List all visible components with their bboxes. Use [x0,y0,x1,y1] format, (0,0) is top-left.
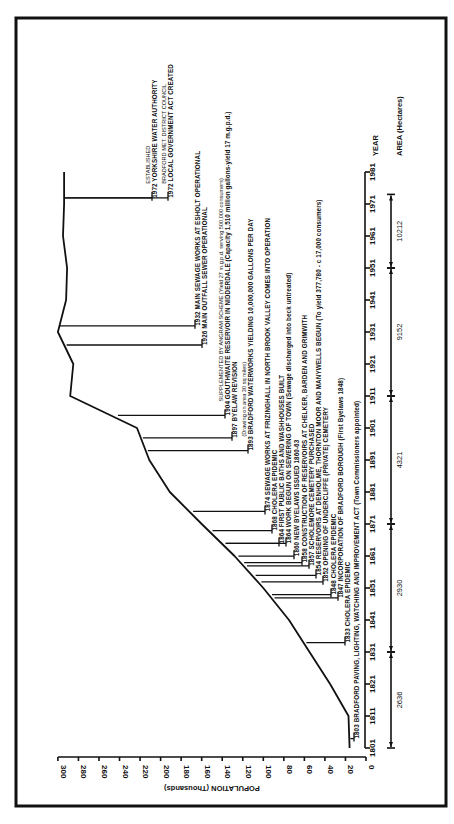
annotation-text: 1854 RESERVOIRS AT DENHOLME, THORNTON MO… [315,199,323,575]
annotation-1926: 1926 MAIN OUTFALL SEWER OPERATIONAL [67,207,208,348]
population-tick-label: 180 [182,765,191,779]
annotation-text: 1893 BRADFORD WATERWORKS YIELDING 10,000… [247,218,255,451]
annotation-1972: 1972 YORKSHIRE WATER AUTHORITYESTABLISHE… [65,79,158,201]
annotation-1803: 1803 BRADFORD PAVING, LIGHTING, WATCHING… [350,401,361,742]
area-axis-title: AREA (Hectares) [395,96,404,156]
population-axis: 0204060801001201401601802002202402602803… [58,757,376,793]
area-hectares-value: 4321 [395,452,404,469]
population-tick-label: 120 [244,765,253,779]
event-annotations: 1803 BRADFORD PAVING, LIGHTING, WATCHING… [60,64,361,742]
annotation-text: 1847 INCORPORATION OF BRADFORD BOROUGH (… [337,378,345,598]
population-tick-label: 100 [264,765,273,779]
area-hectares-axis: 263629304321915210212AREA (Hectares) [387,96,404,748]
annotation-text: 1857 SCHOLEMORE CEMETERY PURCHASED [308,423,315,566]
annotation-1904: 1904 GOUTHWAITE RESERVOIR IN NIDDERDALE … [118,112,232,419]
population-tick-label: 220 [141,765,150,779]
year-axis: 1801181118211831184118511861187118811891… [365,135,380,757]
population-tick-label: 0 [367,765,376,770]
year-tick-label: 1941 [368,291,377,309]
population-tick-label: 160 [203,765,212,779]
annotation-text: 1864 FIRST PUBLIC BATHS AND WASHHOUSES B… [278,375,285,544]
population-tick-label: 40 [326,765,335,774]
year-tick-label: 1971 [368,195,377,213]
annotation-text: 1972 LOCAL GOVERNMENT ACT CREATED [167,64,174,198]
annotation-text: 1833 CHOLERA EPIDEMIC [344,561,351,642]
annotation-text: 1926 MAIN OUTFALL SEWER OPERATIONAL [201,207,208,345]
annotation-text: 1852 OPENING OF UNDERCLIFFE (PRIVATE) CE… [322,406,330,582]
annotation-text: 1904 GOUTHWAITE RESERVOIR IN NIDDERDALE … [224,112,232,416]
year-tick-label: 1831 [368,643,377,661]
annotation-text: 1858 CONSTRUCTION OF RESERVOIRS AT CHELK… [301,315,309,563]
annotation-1932: 1932 MAIN SEWAGE WORKS AT ESHOLT OPERATI… [60,151,201,329]
year-tick-label: 1851 [368,579,377,597]
year-tick-label: 1891 [368,451,377,469]
annotation-text: 1874 SEWAGE WORKS AT FRIZINGHALL IN NORT… [264,218,271,512]
annotation-text: 1860 NEW BYELAWS ISSUED 1860-63 [293,439,300,556]
annotation-text: 1972 YORKSHIRE WATER AUTHORITY [151,79,158,198]
annotation-text: 1932 MAIN SEWAGE WORKS AT ESHOLT OPERATI… [194,151,201,326]
annotation-text: (Drawing on area 30 sq miles) [241,362,247,437]
year-tick-label: 1901 [368,419,377,437]
year-tick-label: 1841 [368,611,377,629]
year-tick-label: 1981 [368,163,377,181]
population-tick-label: 280 [79,765,88,779]
year-tick-label: 1821 [368,675,377,693]
population-tick-label: 20 [346,765,355,774]
year-tick-label: 1801 [368,739,377,757]
year-tick-label: 1931 [368,323,377,341]
year-tick-label: 1951 [368,259,377,277]
annotation-text: 1868 CHOLERA EPIDEMIC [271,449,278,530]
population-tick-label: 240 [121,765,130,779]
year-axis-title: YEAR [371,135,380,156]
year-tick-label: 1871 [368,515,377,533]
year-tick-label: 1861 [368,547,377,565]
population-tick-label: 260 [100,765,109,779]
population-tick-label: 140 [223,765,232,779]
population-history-chart: 0204060801001201401601802002202402602803… [0,0,454,824]
population-tick-label: 200 [162,765,171,779]
annotation-text: 1897 BYELAW REVISION [231,361,238,438]
year-tick-label: 1811 [368,707,377,725]
area-hectares-value: 10212 [395,221,404,242]
year-tick-label: 1911 [368,387,377,405]
population-axis-title: POPULATION (Thousands) [164,784,260,793]
annotation-text: BRADFORD MET. DISTRICT COUNCIL [161,84,167,184]
annotation-text: ESTABLISHED [145,146,151,184]
year-tick-label: 1921 [368,355,377,373]
area-hectares-value: 2930 [395,580,404,597]
population-tick-label: 80 [285,765,294,774]
year-tick-label: 1881 [368,483,377,501]
annotation-text: 1803 BRADFORD PAVING, LIGHTING, WATCHING… [353,401,361,739]
annotation-text: SUPPLEMENTED BY ANGRAM SCHEME (Yield 27 … [218,178,224,401]
year-tick-label: 1961 [368,227,377,245]
area-hectares-value: 9152 [395,324,404,341]
annotation-text: 1864 WORK BEGUN ON SEWERING OF TOWN (Sew… [285,273,293,544]
area-hectares-value: 2636 [395,692,404,709]
population-tick-label: 60 [305,765,314,774]
annotation-text: 1848 CHOLERA EPIDEMIC [330,513,337,594]
population-tick-label: 300 [59,765,68,779]
